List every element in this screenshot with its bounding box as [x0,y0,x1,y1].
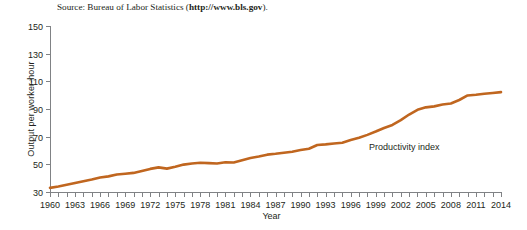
x-tick-label: 1960 [40,200,60,210]
x-tick-label: 2014 [491,200,511,210]
x-tick-label: 1996 [341,200,361,210]
y-axis-title: Output per worker-hour [26,34,36,184]
x-tick-label: 1972 [140,200,160,210]
x-tick-label: 2008 [441,200,461,210]
series-line-productivity-index [50,92,501,188]
x-tick-label: 1984 [240,200,260,210]
x-tick-label: 1975 [165,200,185,210]
x-axis-title-text: Year [262,211,280,221]
x-tick-label: 1963 [65,200,85,210]
x-tick-label: 2002 [391,200,411,210]
x-tick-label: 1969 [115,200,135,210]
line-chart-plot: 3050709011013015019601963196619691972197… [0,0,527,230]
x-tick-label: 1978 [190,200,210,210]
x-tick-label: 2005 [416,200,436,210]
x-tick-label: 1981 [215,200,235,210]
y-tick-label: 30 [33,188,43,198]
x-tick-label: 2011 [466,200,485,210]
x-tick-label: 1999 [366,200,386,210]
x-tick-label: 1966 [90,200,110,210]
y-tick-label: 150 [28,22,43,32]
x-tick-label: 1993 [316,200,336,210]
x-tick-label: 1990 [291,200,311,210]
x-tick-label: 1987 [265,200,285,210]
series-annotation-productivity-index: Productivity index [369,142,440,152]
productivity-chart-figure: Source: Bureau of Labor Statistics (http… [0,0,527,230]
x-axis-title: Year [0,211,527,221]
